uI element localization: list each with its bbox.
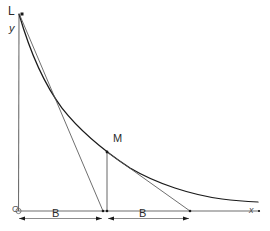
subtangent-figure: L y M O x B B [0,0,270,231]
label-subtangent-2: B [139,208,146,219]
label-point-M: M [113,133,122,144]
point-marker-M [106,151,109,154]
label-subtangent-1: B [52,208,59,219]
label-x-axis: x [249,206,254,215]
label-y-axis: y [9,23,15,34]
foot-marker-tangent-L [102,210,105,213]
point-marker-L [21,13,24,16]
y-axis [19,14,20,211]
x-axis-end-marker [258,210,260,212]
tangent-line-at-M [107,152,190,211]
label-point-L: L [8,5,15,17]
decay-curve [19,14,258,202]
label-origin: O [12,205,19,214]
foot-marker-tangent-M [189,210,192,213]
subtangent-dimension-1 [19,216,102,220]
tangent-line-at-L [20,15,104,212]
foot-marker-ordinate-M [106,210,109,213]
subtangent-dimension-2 [108,216,189,220]
figure-canvas [0,0,270,231]
